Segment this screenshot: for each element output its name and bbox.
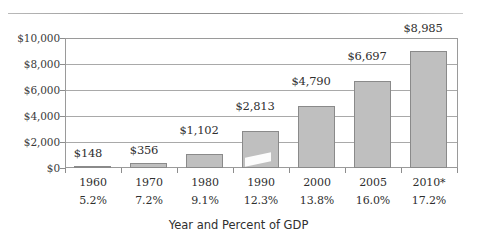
bar-1970[interactable]: [130, 163, 167, 168]
page-divider-rule: [8, 13, 463, 14]
x-axis-tick-3: [233, 168, 234, 173]
x-axis-label-pct-1970: 7.2%: [121, 194, 177, 207]
value-label-1990: $2,813: [225, 100, 285, 113]
x-axis-tick-1: [121, 168, 122, 173]
x-axis-label-year-1960: 1960: [65, 176, 121, 189]
x-axis-label-pct-1960: 5.2%: [65, 194, 121, 207]
bar-2010[interactable]: [410, 51, 447, 168]
x-axis-tick-7: [457, 168, 458, 173]
y-axis-label-8000: $8,000: [0, 59, 60, 70]
bar-slot-1980: [186, 38, 223, 168]
chart-figure: $10,000 $8,000 $6,000 $4,000 $2,000 $0: [0, 0, 477, 245]
y-axis-label-2000: $2,000: [0, 137, 60, 148]
value-label-1970: $356: [116, 144, 172, 157]
x-axis-label-pct-2010: 17.2%: [401, 194, 457, 207]
value-label-1980: $1,102: [169, 124, 229, 137]
x-axis-label-year-2010: 2010*: [401, 176, 457, 189]
x-axis-label-year-1970: 1970: [121, 176, 177, 189]
bar-1960[interactable]: [74, 166, 111, 168]
x-axis-label-pct-1990: 12.3%: [233, 194, 289, 207]
x-axis-tick-2: [177, 168, 178, 173]
y-axis: $10,000 $8,000 $6,000 $4,000 $2,000 $0: [0, 0, 60, 245]
bar-2000[interactable]: [298, 106, 335, 168]
scan-artifact-streak: [245, 152, 271, 167]
bar-1980[interactable]: [186, 154, 223, 168]
x-axis-label-year-2005: 2005: [345, 176, 401, 189]
x-axis-tick-6: [401, 168, 402, 173]
x-axis-label-year-2000: 2000: [289, 176, 345, 189]
value-label-2000: $4,790: [281, 75, 341, 88]
x-axis-tick-5: [345, 168, 346, 173]
bar-slot-2000: [298, 38, 335, 168]
x-axis-tick-0: [65, 168, 66, 173]
bar-1990[interactable]: [242, 131, 279, 168]
y-axis-label-4000: $4,000: [0, 111, 60, 122]
value-label-2010: $8,985: [393, 22, 453, 35]
y-axis-label-0: $0: [0, 163, 60, 174]
bar-2005[interactable]: [354, 81, 391, 168]
bar-slot-2010: [410, 38, 447, 168]
value-label-1960: $148: [60, 147, 116, 160]
x-axis-tick-4: [289, 168, 290, 173]
x-axis-label-pct-1980: 9.1%: [177, 194, 233, 207]
y-axis-label-6000: $6,000: [0, 85, 60, 96]
x-axis-title: Year and Percent of GDP: [0, 218, 477, 232]
x-axis-label-pct-2000: 13.8%: [289, 194, 345, 207]
x-axis-label-pct-2005: 16.0%: [345, 194, 401, 207]
x-axis-label-year-1990: 1990: [233, 176, 289, 189]
x-axis-label-year-1980: 1980: [177, 176, 233, 189]
y-axis-label-10000: $10,000: [0, 33, 60, 44]
value-label-2005: $6,697: [337, 50, 397, 63]
